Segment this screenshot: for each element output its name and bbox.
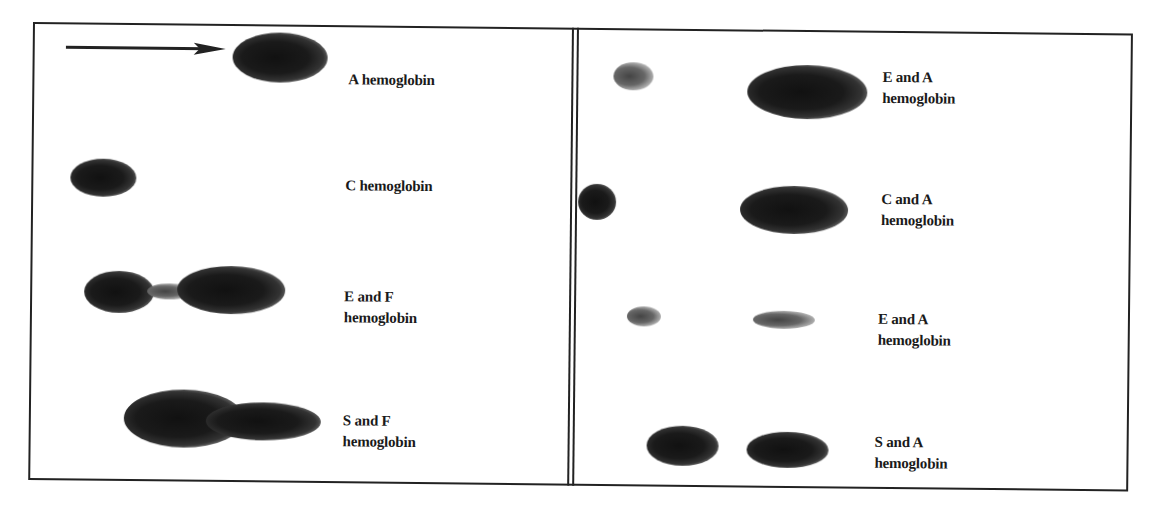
- band-c: [70, 158, 136, 197]
- band-c: [578, 184, 616, 220]
- left-panel: A hemoglobin C hemoglobin E and F hemogl…: [0, 0, 1167, 12]
- electrophoresis-figure: A hemoglobin C hemoglobin E and F hemogl…: [0, 0, 1167, 520]
- band-e: [84, 271, 154, 314]
- lane-label: E and F hemoglobin: [344, 286, 417, 329]
- lane-label: C and A hemoglobin: [881, 189, 954, 232]
- band-a: [746, 431, 828, 468]
- lane-label: A hemoglobin: [348, 69, 435, 91]
- band-a: [740, 185, 848, 234]
- lane-label: E and A hemoglobin: [882, 67, 955, 110]
- lane-label: S and F hemoglobin: [343, 410, 416, 453]
- arrow-right-icon: [66, 40, 231, 56]
- band-e: [627, 306, 661, 326]
- band-a: [232, 32, 328, 83]
- band-f: [177, 266, 285, 315]
- band-s: [646, 425, 718, 466]
- lane-label: S and A hemoglobin: [874, 432, 947, 475]
- right-panel: E and A hemoglobin C and A hemoglobin E …: [0, 0, 1167, 12]
- lane-label: C hemoglobin: [345, 175, 432, 197]
- band-e: [613, 62, 653, 90]
- lane-label: E and A hemoglobin: [878, 309, 951, 352]
